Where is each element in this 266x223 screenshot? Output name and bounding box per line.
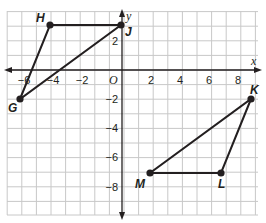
point-l: [217, 169, 224, 176]
x-tick-label: 4: [177, 74, 183, 86]
label-j: J: [125, 25, 132, 39]
y-tick-label: −2: [105, 93, 118, 105]
point-j: [117, 21, 124, 28]
y-tick-label: −6: [105, 151, 118, 163]
point-g: [16, 95, 23, 102]
y-tick-label: −8: [105, 181, 118, 193]
x-tick-label: 6: [206, 74, 212, 86]
label-l: L: [218, 177, 225, 191]
point-m: [146, 169, 153, 176]
origin-label: O: [109, 73, 118, 87]
label-k: K: [250, 83, 260, 97]
x-axis-label: x: [250, 54, 257, 68]
x-tick-label: 2: [148, 74, 154, 86]
y-axis-label: y: [125, 9, 132, 23]
label-h: H: [36, 11, 45, 25]
x-tick-label: −2: [76, 74, 89, 86]
point-h: [46, 21, 53, 28]
triangle-ghj: [20, 25, 121, 99]
y-tick-label: −4: [105, 122, 118, 134]
label-g: G: [8, 101, 17, 115]
y-tick-label: 2: [112, 35, 118, 47]
label-m: M: [135, 177, 146, 191]
x-tick-label: 8: [235, 74, 241, 86]
x-axis-left-arrow-icon: [4, 67, 12, 73]
coordinate-plane: x y O −6 −4 −2 2 4 6 8 2 −2 −4 −6 −8 G H…: [0, 0, 266, 223]
triangle-klm: [150, 99, 251, 173]
y-axis-down-arrow-icon: [119, 212, 125, 220]
